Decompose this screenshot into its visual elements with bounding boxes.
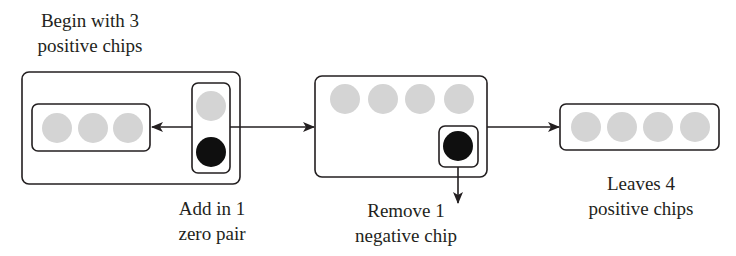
positive-chip [368,84,398,114]
positive-chip [680,112,710,142]
label-remove-negative: Remove 1 negative chip [355,198,457,248]
positive-chip [405,84,435,114]
negative-chip [196,137,226,167]
negative-chip [443,131,473,161]
positive-chip [643,112,673,142]
positive-chip [571,112,601,142]
label-remove-line1: Remove 1 [355,198,457,223]
label-add-line2: zero pair [179,221,246,246]
label-result-line2: positive chips [588,196,693,221]
starting-chips-group [32,104,150,151]
positive-chip [444,84,474,114]
label-begin-line2: positive chips [37,33,142,58]
label-begin-line1: Begin with 3 [37,8,142,33]
label-add-zero-pair: Add in 1 zero pair [179,196,246,246]
label-add-line1: Add in 1 [179,196,246,221]
positive-chip [78,113,108,143]
positive-chip [607,112,637,142]
label-result: Leaves 4 positive chips [588,171,693,221]
result-box [560,104,719,150]
label-result-line1: Leaves 4 [588,171,693,196]
zero-pair-group [192,83,230,173]
label-begin: Begin with 3 positive chips [37,8,142,58]
label-remove-line2: negative chip [355,223,457,248]
negative-chip-removal-group [439,126,478,167]
positive-chip [113,113,143,143]
positive-chip [42,113,72,143]
positive-chip [330,84,360,114]
positive-chip [196,91,226,121]
